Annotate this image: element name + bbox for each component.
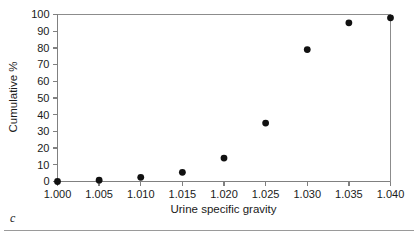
x-axis-title: Urine specific gravity <box>170 203 276 215</box>
scatter-chart: 0102030405060708090100 1.0001.0051.0101.… <box>0 0 418 238</box>
data-point <box>96 177 103 184</box>
y-axis-title: Cumulative % <box>7 62 19 133</box>
x-tick-label: 1.005 <box>85 188 113 200</box>
y-tick-label: 0 <box>43 175 49 187</box>
data-point <box>179 169 186 176</box>
x-tick-label: 1.020 <box>210 188 238 200</box>
data-point <box>137 174 144 181</box>
y-tick-label: 100 <box>31 8 49 20</box>
x-tick-labels: 1.0001.0051.0101.0151.0201.0251.0301.035… <box>44 188 405 200</box>
data-point <box>262 120 269 127</box>
y-tick-label: 60 <box>37 75 49 87</box>
y-tick-label: 30 <box>37 125 49 137</box>
x-tick-label: 1.025 <box>252 188 280 200</box>
y-tick-label: 10 <box>37 159 49 171</box>
y-tick-label: 50 <box>37 92 49 104</box>
figure-panel: 0102030405060708090100 1.0001.0051.0101.… <box>0 0 418 238</box>
x-tick-label: 1.035 <box>335 188 363 200</box>
x-tick-label: 1.030 <box>293 188 321 200</box>
data-point <box>54 178 61 185</box>
x-tick-label: 1.000 <box>44 188 72 200</box>
y-tick-label: 90 <box>37 25 49 37</box>
x-tick-label: 1.010 <box>127 188 155 200</box>
data-point <box>345 19 352 26</box>
panel-caption: c <box>10 211 16 225</box>
x-tick-label: 1.040 <box>377 188 405 200</box>
data-points <box>54 14 394 184</box>
data-point <box>221 155 228 162</box>
data-point <box>387 14 394 21</box>
y-tick-label: 70 <box>37 58 49 70</box>
data-point <box>304 46 311 53</box>
y-tick-label: 40 <box>37 109 49 121</box>
y-tick-labels: 0102030405060708090100 <box>31 8 49 187</box>
y-tick-label: 80 <box>37 42 49 54</box>
x-tick-label: 1.015 <box>169 188 197 200</box>
y-tick-label: 20 <box>37 142 49 154</box>
